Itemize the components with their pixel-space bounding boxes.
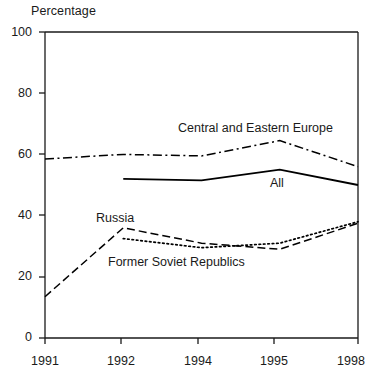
series-line-all: [123, 170, 358, 185]
plot-area: [0, 0, 387, 379]
line-chart: Percentage 100 80 60 40 20 0 1991 1992 1…: [0, 0, 387, 379]
series-line-central-and-eastern-europe: [45, 141, 358, 167]
